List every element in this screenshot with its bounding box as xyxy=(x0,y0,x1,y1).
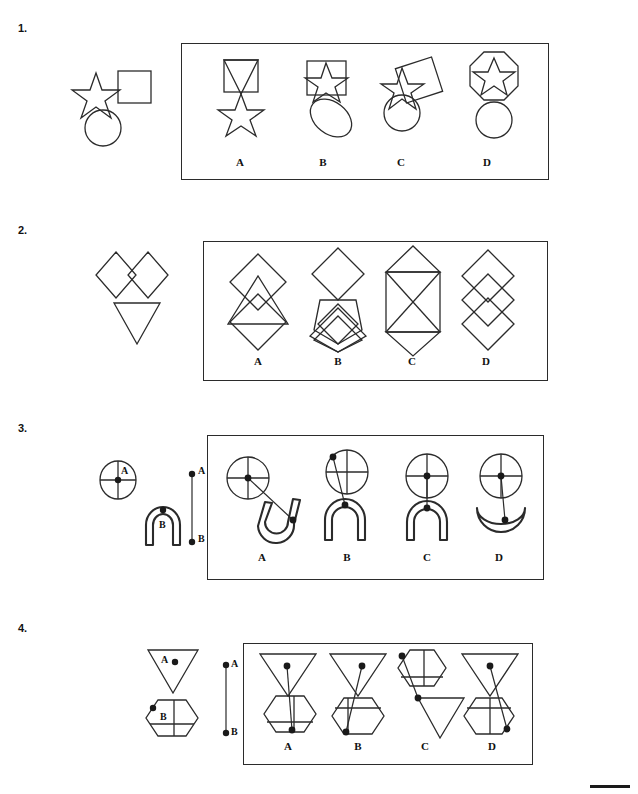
option-4a-connector xyxy=(287,666,292,730)
option-4b-label: B xyxy=(348,740,368,752)
option-2d-label: D xyxy=(476,355,496,367)
option-3a-connector xyxy=(248,478,293,520)
question-1-stem xyxy=(70,55,190,155)
option-3b-connector xyxy=(333,457,345,505)
option-1b-figure[interactable] xyxy=(295,58,367,150)
question-2: 2. A xyxy=(0,200,638,400)
question-3-options-box: A B xyxy=(207,435,544,580)
option-4b-point-a xyxy=(359,663,366,670)
question-4-number: 4. xyxy=(18,622,27,634)
option-4d-point-b xyxy=(504,726,511,733)
option-1c-square-icon xyxy=(395,57,442,103)
option-2d-diamond-bottom-icon xyxy=(462,298,514,350)
question-2-number: 2. xyxy=(18,224,27,236)
option-2c-triangle-top-icon xyxy=(386,246,440,272)
option-2a-triangle-icon xyxy=(228,276,288,324)
option-4c-point-b xyxy=(415,695,422,702)
question-3-point-b-label: B xyxy=(198,533,205,544)
footer-rule xyxy=(590,785,630,788)
option-4b-triangle-icon xyxy=(330,654,386,696)
option-2b-label: B xyxy=(328,355,348,367)
stem-segment-point-a xyxy=(189,471,195,477)
option-1b-ellipse-icon xyxy=(303,91,359,145)
option-2c-figure[interactable] xyxy=(376,244,450,354)
option-4d-label: D xyxy=(482,740,502,752)
option-2b-diamond-top-icon xyxy=(312,248,364,300)
option-3d-point-a xyxy=(498,473,505,480)
question-3-point-a-label: A xyxy=(198,465,205,476)
option-4a-point-a xyxy=(284,663,291,670)
question-4-point-b-label: B xyxy=(231,726,238,737)
option-4b-hexagon-icon xyxy=(332,698,384,734)
stem-hexagon-letter-b: B xyxy=(160,711,167,722)
option-3b-figure[interactable] xyxy=(309,448,389,546)
option-4d-point-a xyxy=(487,663,494,670)
option-4c-figure[interactable] xyxy=(392,646,468,742)
stem-arch-point-b xyxy=(160,507,166,513)
option-3d-crescent-icon xyxy=(477,508,525,532)
option-2d-figure[interactable] xyxy=(452,248,524,354)
stem-segment-point-a xyxy=(223,662,229,668)
option-4c-point-a xyxy=(399,653,406,660)
question-1-options-box: A B C xyxy=(181,43,549,180)
option-4d-figure[interactable] xyxy=(458,650,530,742)
option-3b-label: B xyxy=(337,551,357,563)
question-3-number: 3. xyxy=(18,422,27,434)
option-3c-point-b xyxy=(424,505,431,512)
option-2d-diamond-middle-icon xyxy=(462,274,514,326)
stem-diamond-right-icon xyxy=(128,252,168,298)
option-2b-diamond-small-icon xyxy=(318,304,358,344)
question-2-options-box: A B xyxy=(203,241,548,381)
option-1d-star-icon xyxy=(473,58,515,95)
option-2b-diamond-lower-icon xyxy=(310,308,366,352)
stem-circle-icon xyxy=(85,110,121,146)
option-1a-square-icon xyxy=(224,60,258,92)
option-1d-figure[interactable] xyxy=(460,48,530,148)
option-4c-label: C xyxy=(415,740,435,752)
question-4: 4. A B A B xyxy=(0,600,638,794)
option-3a-label: A xyxy=(252,551,272,563)
option-3c-point-a xyxy=(424,473,431,480)
option-1a-star-icon xyxy=(218,94,264,136)
option-2a-figure[interactable] xyxy=(220,250,296,354)
stem-segment-point-b xyxy=(189,539,195,545)
option-1a-figure[interactable] xyxy=(210,56,282,151)
option-2a-diamond-bottom-icon xyxy=(230,294,286,350)
option-2b-figure[interactable] xyxy=(300,246,376,354)
stem-triangle-letter-a: A xyxy=(161,654,169,665)
option-4b-point-b xyxy=(343,729,350,736)
option-3b-point-b xyxy=(342,502,349,509)
option-4a-point-b xyxy=(289,727,296,734)
option-3d-point-b xyxy=(502,517,509,524)
stem-arch-letter-b: B xyxy=(159,519,166,530)
option-4a-figure[interactable] xyxy=(254,650,326,742)
stem-circle-letter-a: A xyxy=(121,465,129,476)
option-1d-circle-icon xyxy=(476,102,512,138)
option-1c-figure[interactable] xyxy=(372,54,452,149)
stem-circle-point-a xyxy=(115,477,121,483)
option-3d-figure[interactable] xyxy=(461,452,541,546)
question-2-stem xyxy=(96,244,186,354)
option-2d-diamond-top-icon xyxy=(462,250,514,302)
option-1b-star-icon xyxy=(305,63,348,102)
option-1c-circle-icon xyxy=(384,95,420,131)
option-3a-figure[interactable] xyxy=(222,454,308,544)
option-2c-label: C xyxy=(402,355,422,367)
option-2a-label: A xyxy=(248,355,268,367)
stem-triangle-down-icon xyxy=(148,650,198,693)
question-4-point-a-label: A xyxy=(231,658,238,669)
option-2a-diamond-top-icon xyxy=(230,254,286,310)
option-3a-point-a xyxy=(245,475,252,482)
stem-triangle-down-icon xyxy=(114,303,160,344)
stem-segment-point-b xyxy=(223,730,229,736)
option-3c-label: C xyxy=(417,551,437,563)
option-4b-figure[interactable] xyxy=(324,650,396,742)
option-3d-label: D xyxy=(489,551,509,563)
option-1a-triangle-icon xyxy=(224,60,258,94)
option-2b-pentagon-icon xyxy=(314,300,362,344)
option-4d-triangle-icon xyxy=(462,654,518,696)
stem-hexagon-point-b xyxy=(150,705,156,711)
stem-square-icon xyxy=(118,71,151,103)
option-4a-label: A xyxy=(278,740,298,752)
option-3c-figure[interactable] xyxy=(389,452,469,546)
